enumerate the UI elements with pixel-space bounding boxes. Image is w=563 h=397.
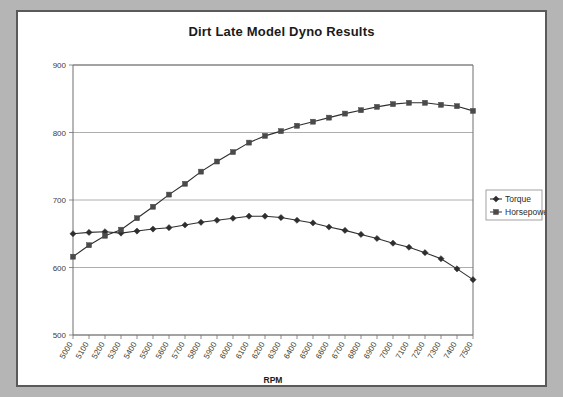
data-point-marker [166, 225, 172, 231]
data-point-marker [231, 150, 236, 155]
x-tick-label: 6000 [218, 340, 235, 360]
x-tick-label: 7100 [394, 340, 411, 360]
data-point-marker [278, 214, 284, 220]
data-point-marker [150, 226, 156, 232]
chart-frame: Dirt Late Model Dyno Results 50060070080… [16, 10, 547, 387]
x-tick-label: 6600 [314, 340, 331, 360]
data-point-marker [167, 192, 172, 197]
data-point-marker [214, 217, 220, 223]
data-point-marker [406, 244, 412, 250]
x-axis-title: RPM [264, 375, 283, 385]
chart-canvas: 500600700800900 500051005200530054005500… [18, 12, 545, 385]
x-tick-label: 5400 [122, 340, 139, 360]
y-tick-label: 900 [53, 61, 67, 70]
data-point-marker [135, 216, 140, 221]
series-horsepower [71, 100, 476, 259]
data-point-marker [470, 277, 476, 283]
data-point-marker [134, 228, 140, 234]
y-axis-tick-labels: 500600700800900 [53, 61, 73, 340]
data-point-marker [262, 213, 268, 219]
x-tick-label: 6800 [346, 340, 363, 360]
data-point-marker [390, 240, 396, 246]
y-tick-label: 700 [53, 196, 67, 205]
data-point-marker [247, 140, 252, 145]
data-point-marker [198, 219, 204, 225]
x-tick-label: 5700 [170, 340, 187, 360]
data-point-marker [407, 100, 412, 105]
x-tick-label: 5000 [58, 340, 75, 360]
legend-marker [494, 210, 499, 215]
data-point-marker [199, 169, 204, 174]
gridlines-group [73, 65, 473, 335]
data-point-marker [342, 227, 348, 233]
data-series-group [70, 100, 476, 282]
data-point-marker [87, 243, 92, 248]
x-axis-title-label: RPM [264, 375, 283, 385]
x-tick-label: 6200 [250, 340, 267, 360]
x-tick-label: 5500 [138, 340, 155, 360]
x-tick-label: 6500 [298, 340, 315, 360]
x-tick-label: 5600 [154, 340, 171, 360]
series-torque [70, 213, 476, 283]
data-point-marker [182, 222, 188, 228]
x-tick-label: 6400 [282, 340, 299, 360]
x-tick-label: 5800 [186, 340, 203, 360]
dyno-line-chart: 500600700800900 500051005200530054005500… [18, 12, 545, 385]
x-tick-label: 7300 [426, 340, 443, 360]
x-tick-label: 6100 [234, 340, 251, 360]
chart-legend: TorqueHorsepower [486, 190, 545, 220]
data-point-marker [311, 119, 316, 124]
x-tick-label: 5900 [202, 340, 219, 360]
data-point-marker [391, 102, 396, 107]
y-tick-label: 600 [53, 264, 67, 273]
series-line-horsepower [73, 103, 473, 257]
data-point-marker [422, 250, 428, 256]
x-tick-label: 7200 [410, 340, 427, 360]
data-point-marker [326, 224, 332, 230]
data-point-marker [71, 254, 76, 259]
data-point-marker [471, 108, 476, 113]
x-axis-tick-labels: 5000510052005300540055005600570058005900… [58, 335, 475, 360]
legend-item-torque[interactable]: Torque [505, 194, 531, 204]
y-tick-label: 500 [53, 331, 67, 340]
data-point-marker [294, 217, 300, 223]
data-point-marker [310, 220, 316, 226]
data-point-marker [103, 233, 108, 238]
data-point-marker [359, 108, 364, 113]
data-point-marker [70, 231, 76, 237]
x-tick-label: 7000 [378, 340, 395, 360]
x-tick-label: 5300 [106, 340, 123, 360]
data-point-marker [295, 123, 300, 128]
x-tick-label: 6300 [266, 340, 283, 360]
data-point-marker [374, 235, 380, 241]
data-point-marker [423, 100, 428, 105]
data-point-marker [327, 115, 332, 120]
data-point-marker [246, 213, 252, 219]
x-tick-label: 5100 [74, 340, 91, 360]
x-tick-label: 7500 [458, 340, 475, 360]
legend-item-horsepower[interactable]: Horsepower [505, 207, 545, 217]
data-point-marker [343, 111, 348, 116]
data-point-marker [263, 133, 268, 138]
data-point-marker [230, 215, 236, 221]
data-point-marker [119, 227, 124, 232]
data-point-marker [151, 204, 156, 209]
x-tick-label: 7400 [442, 340, 459, 360]
data-point-marker [439, 102, 444, 107]
data-point-marker [183, 181, 188, 186]
data-point-marker [455, 104, 460, 109]
series-line-torque [73, 216, 473, 279]
data-point-marker [438, 256, 444, 262]
data-point-marker [279, 129, 284, 134]
data-point-marker [454, 266, 460, 272]
data-point-marker [86, 229, 92, 235]
y-tick-label: 800 [53, 129, 67, 138]
data-point-marker [375, 104, 380, 109]
x-tick-label: 5200 [90, 340, 107, 360]
x-tick-label: 6700 [330, 340, 347, 360]
data-point-marker [215, 159, 220, 164]
x-tick-label: 6900 [362, 340, 379, 360]
data-point-marker [358, 231, 364, 237]
